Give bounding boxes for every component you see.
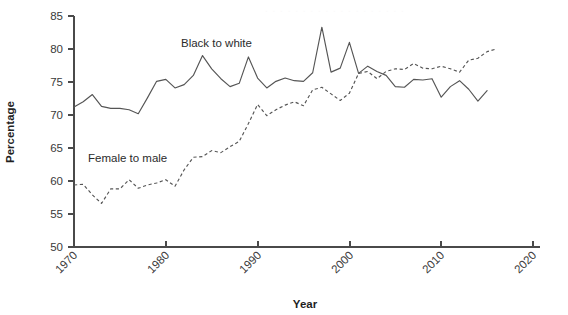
- y-tick-label-65: 65: [50, 142, 63, 154]
- series-label-female-to-male: Female to male: [88, 152, 167, 164]
- y-tick-label-55: 55: [50, 208, 63, 220]
- y-tick-label-60: 60: [50, 175, 63, 187]
- y-axis-title: Percentage: [4, 101, 16, 163]
- chart-background: [0, 0, 568, 315]
- y-tick-label-80: 80: [50, 43, 63, 55]
- y-tick-label-70: 70: [50, 109, 63, 121]
- y-tick-label-50: 50: [50, 241, 63, 253]
- line-chart: . . . . . . . . . . . . . . . . . . . 85…: [0, 0, 568, 315]
- y-tick-label-85: 85: [50, 10, 63, 22]
- x-axis-title: Year: [293, 298, 318, 310]
- y-tick-label-75: 75: [50, 76, 63, 88]
- chart-container: . . . . . . . . . . . . . . . . . . . 85…: [0, 0, 568, 315]
- scan-artifact-text: . . . . . . . . . . . . . . . . . . .: [265, 3, 405, 14]
- series-label-black-to-white: Black to white: [181, 37, 252, 49]
